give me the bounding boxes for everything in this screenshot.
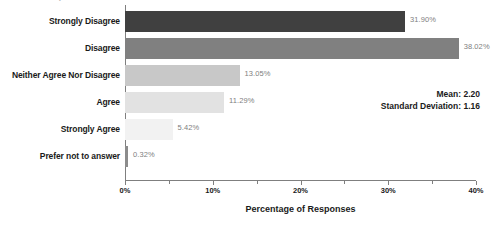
x-axis-tick (476, 181, 477, 185)
bar (125, 92, 224, 113)
x-axis-minor-tick (169, 181, 170, 184)
x-axis-tick-label: 0% (120, 186, 131, 195)
bar-value-label: 13.05% (245, 69, 271, 78)
category-label: Strongly Agree (0, 124, 120, 134)
mean-value: Mean: 2.20 (381, 88, 480, 100)
bar-value-label: 38.02% (464, 42, 490, 51)
category-label: Strongly Disagree (0, 16, 120, 26)
x-axis-tick-label: 20% (293, 186, 308, 195)
x-axis-tick-label: 30% (381, 186, 396, 195)
bar-row: 5.42% (125, 116, 476, 143)
bar (125, 119, 173, 140)
bar-value-label: 5.42% (178, 123, 200, 132)
bar-value-label: 11.29% (229, 96, 254, 105)
statistics-annotation: Mean: 2.20 Standard Deviation: 1.16 (381, 88, 480, 112)
category-label: Disagree (0, 43, 120, 53)
category-axis-labels: Strongly DisagreeDisagreeNeither Agree N… (0, 5, 120, 180)
bar (125, 146, 128, 167)
bar-row: 31.90% (125, 8, 476, 35)
bar-row: 13.05% (125, 62, 476, 89)
bar-row: 38.02% (125, 35, 476, 62)
standard-deviation-value: Standard Deviation: 1.16 (381, 100, 480, 112)
bar (125, 38, 459, 59)
cropped-title-text: Responses (44, 0, 166, 1)
x-axis-minor-tick (432, 181, 433, 184)
x-axis-tick (388, 181, 389, 185)
bar-value-label: 31.90% (410, 15, 436, 24)
x-axis-minor-tick (257, 181, 258, 184)
category-label: Neither Agree Nor Disagree (0, 70, 120, 80)
bar (125, 11, 405, 32)
x-axis-title: Percentage of Responses (125, 204, 476, 214)
x-axis-tick-label: 40% (468, 186, 483, 195)
category-label: Prefer not to answer (0, 151, 120, 161)
bar-chart: Responses Strongly DisagreeDisagreeNeith… (0, 0, 492, 228)
x-axis-tick (301, 181, 302, 185)
bar (125, 65, 240, 86)
x-axis-tick (213, 181, 214, 185)
x-axis-tick (125, 181, 126, 185)
x-axis-tick-label: 10% (205, 186, 220, 195)
cropped-title-remnant: Responses (44, 0, 166, 3)
bar-row: 0.32% (125, 143, 476, 170)
x-axis-minor-tick (344, 181, 345, 184)
bar-value-label: 0.32% (133, 150, 155, 159)
category-label: Agree (0, 97, 120, 107)
